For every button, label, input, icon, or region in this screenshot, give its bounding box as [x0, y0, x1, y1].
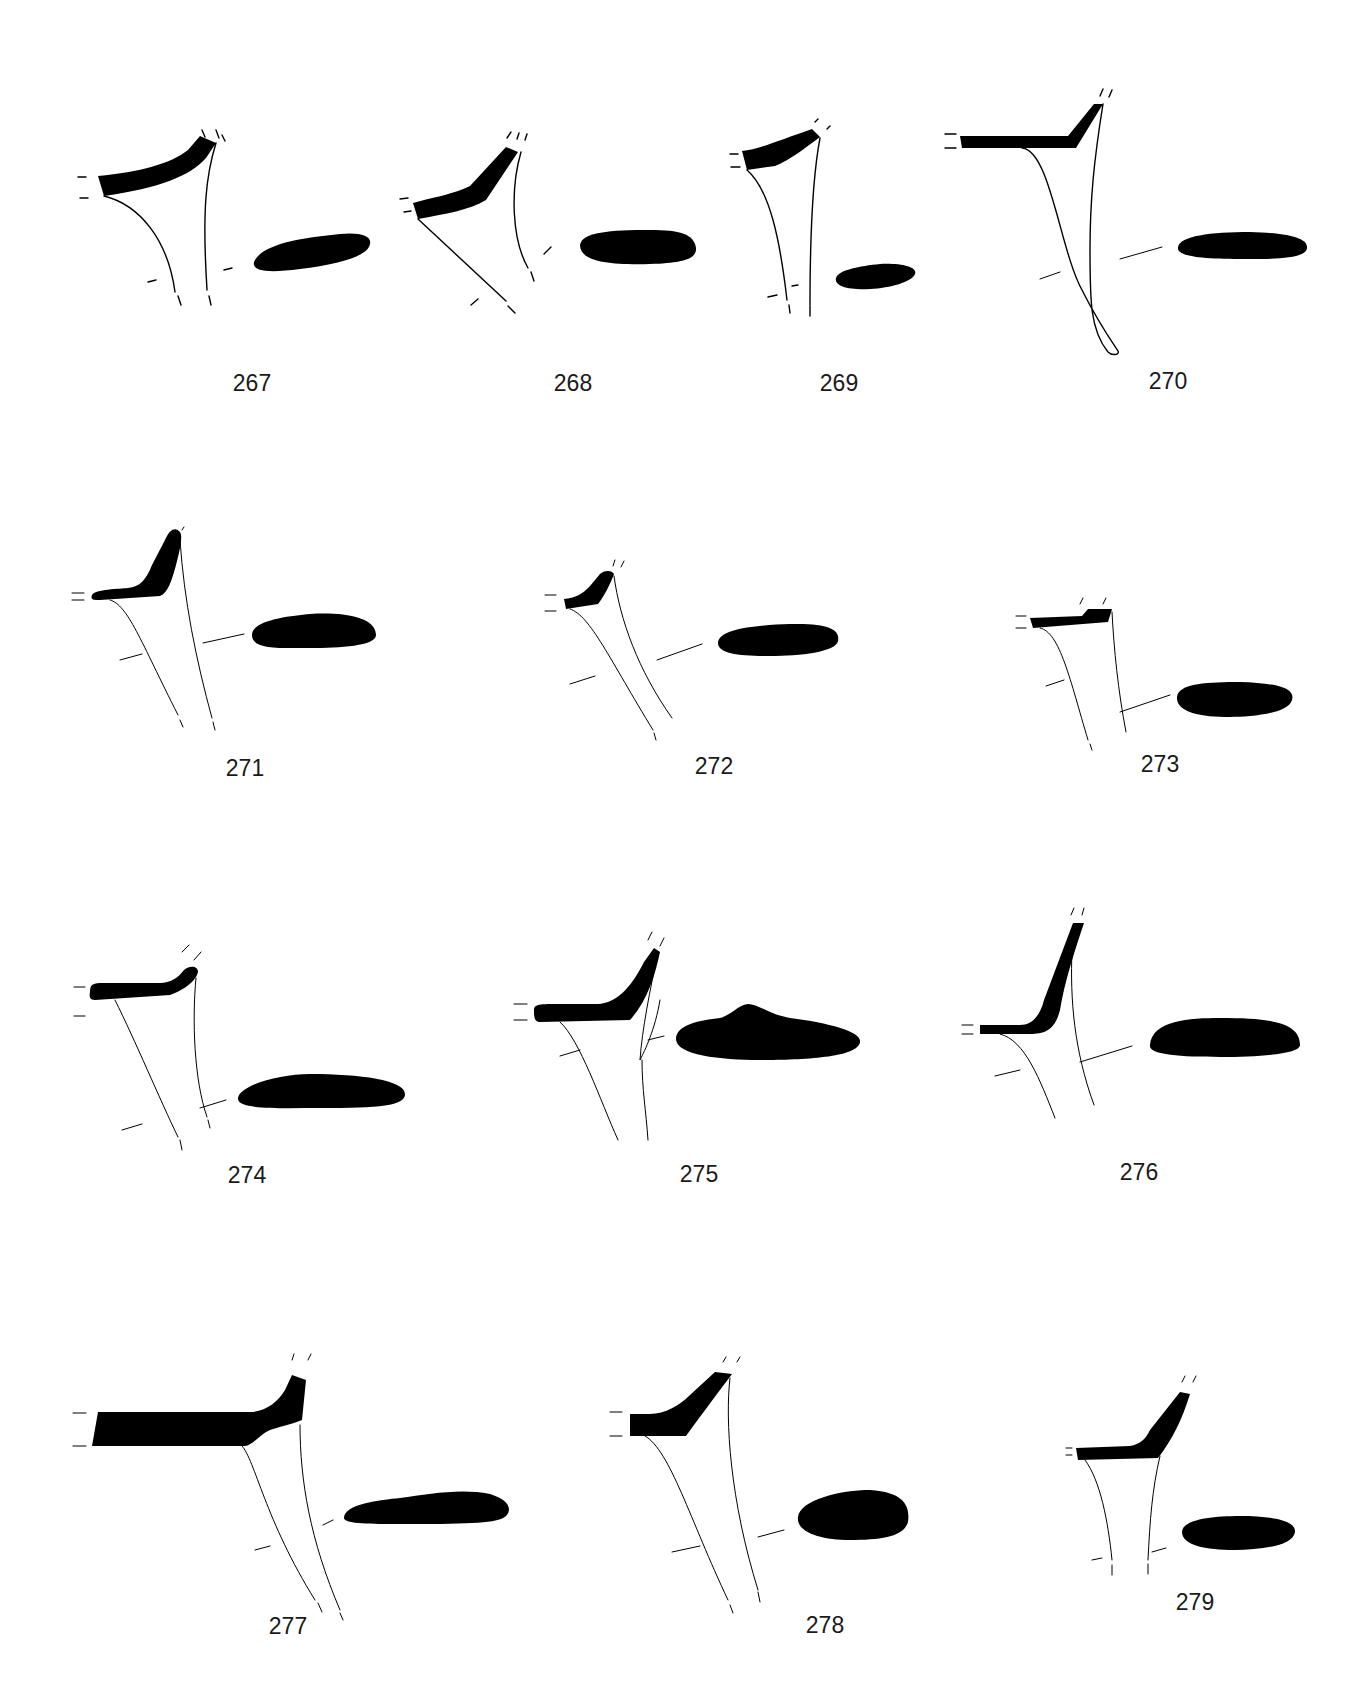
figure-277-drawing	[73, 1354, 509, 1620]
figure-label-269: 269	[820, 372, 858, 395]
figure-271-drawing	[72, 527, 376, 730]
figure-268-drawing	[400, 132, 696, 313]
figure-label-279: 279	[1176, 1591, 1214, 1614]
figure-267-drawing	[78, 130, 370, 305]
figure-label-275: 275	[680, 1163, 718, 1186]
figure-label-278: 278	[806, 1614, 844, 1637]
figure-label-274: 274	[228, 1164, 266, 1187]
figure-276-drawing	[962, 908, 1300, 1118]
figure-275-drawing	[514, 932, 860, 1140]
figure-label-271: 271	[226, 757, 264, 780]
figure-label-267: 267	[233, 372, 271, 395]
drawing-plate: 267 268 269 270 271 272 273 274 275 276 …	[0, 0, 1362, 1695]
figure-label-276: 276	[1120, 1161, 1158, 1184]
figure-279-drawing	[1066, 1376, 1295, 1575]
handle-drawings	[0, 0, 1362, 1695]
figure-label-272: 272	[695, 755, 733, 778]
figure-label-277: 277	[269, 1615, 307, 1638]
figure-274-drawing	[74, 945, 405, 1150]
figure-label-270: 270	[1149, 370, 1187, 393]
figure-273-drawing	[1016, 598, 1292, 750]
figure-270-drawing	[945, 89, 1307, 355]
figure-278-drawing	[610, 1357, 908, 1613]
figure-272-drawing	[545, 560, 838, 740]
figure-label-273: 273	[1141, 753, 1179, 776]
figure-269-drawing	[730, 119, 915, 316]
figure-label-268: 268	[554, 372, 592, 395]
